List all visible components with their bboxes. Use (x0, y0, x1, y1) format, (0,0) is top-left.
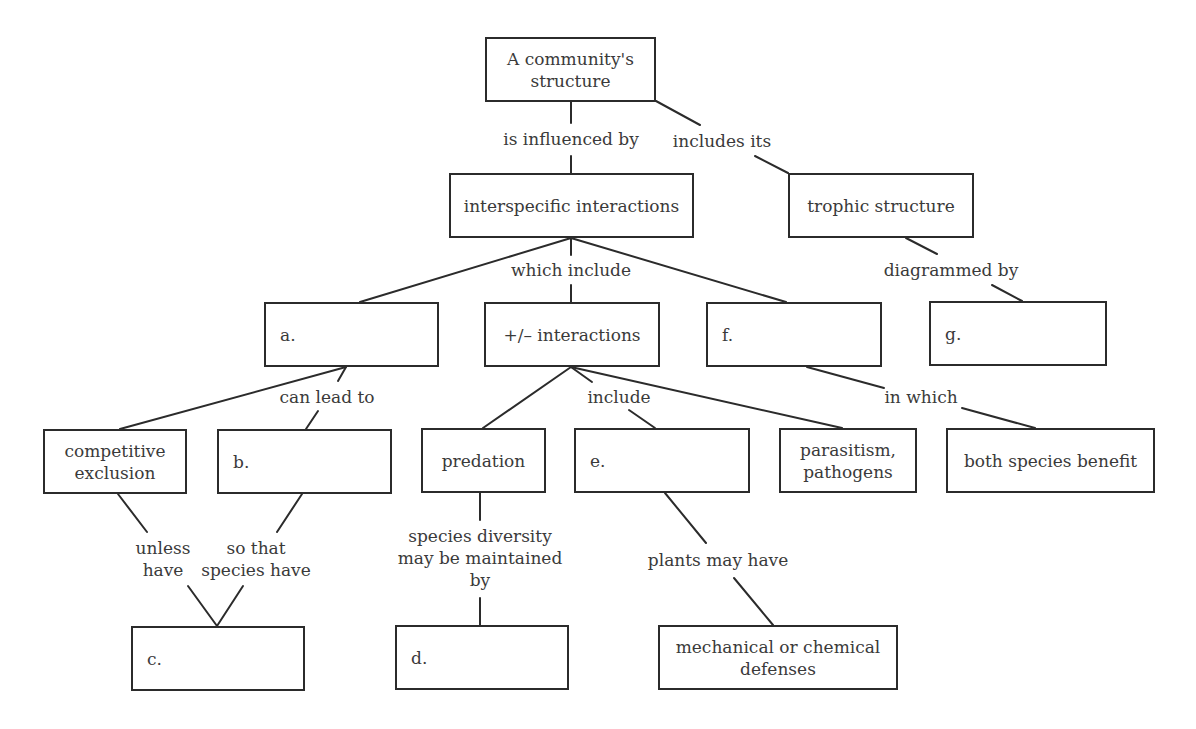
node-both-species-benefit: both species benefit (946, 428, 1155, 493)
node-label: g. (945, 323, 961, 345)
node-label: parasitism, pathogens (800, 439, 896, 483)
node-blank-a: a. (264, 302, 439, 367)
node-plus-minus-interactions: +/– interactions (484, 302, 660, 367)
connector-line (483, 367, 571, 428)
node-label: f. (722, 324, 733, 346)
edge-label-is-influenced-by: is influenced by (503, 128, 639, 150)
connector-line (755, 156, 788, 173)
node-label: a. (280, 324, 296, 346)
node-label: c. (147, 648, 162, 670)
node-label: b. (233, 451, 249, 473)
node-parasitism-pathogens: parasitism, pathogens (779, 428, 917, 493)
connector-line (118, 494, 147, 532)
edge-label-include: include (587, 386, 650, 408)
node-label: predation (442, 450, 526, 472)
connector-line (962, 408, 1035, 428)
node-label: e. (590, 450, 605, 472)
connector-line (277, 494, 302, 532)
connector-line (906, 238, 937, 254)
node-label: mechanical or chemical defenses (676, 636, 881, 680)
node-blank-b: b. (217, 429, 392, 494)
node-blank-g: g. (929, 301, 1107, 366)
node-interspecific-interactions: interspecific interactions (449, 173, 694, 238)
node-predation: predation (421, 428, 546, 493)
node-mechanical-chemical-defenses: mechanical or chemical defenses (658, 625, 898, 690)
edge-label-species-diversity-maintained-by: species diversity may be maintained by (398, 525, 563, 591)
node-label: d. (411, 647, 427, 669)
connector-line (992, 285, 1022, 301)
edge-label-diagrammed-by: diagrammed by (884, 259, 1019, 281)
node-label: competitive exclusion (64, 440, 165, 484)
connector-line (665, 493, 706, 543)
node-competitive-exclusion: competitive exclusion (43, 429, 187, 494)
connector-line (629, 410, 655, 428)
edge-label-unless-have: unless have (136, 537, 191, 581)
connector-line (807, 367, 884, 388)
node-blank-f: f. (706, 302, 882, 367)
connector-line (217, 586, 243, 626)
node-label: interspecific interactions (464, 195, 680, 217)
node-blank-e: e. (574, 428, 750, 493)
edge-label-so-that-species-have: so that species have (201, 537, 311, 581)
edge-label-in-which: in which (884, 386, 957, 408)
connector-line (656, 101, 700, 125)
edge-label-can-lead-to: can lead to (280, 386, 375, 408)
edge-label-which-include: which include (511, 259, 631, 281)
node-label: +/– interactions (503, 324, 640, 346)
edge-label-includes-its: includes its (673, 130, 771, 152)
connector-line (188, 586, 217, 626)
connector-line (306, 411, 318, 429)
connector-line (734, 578, 773, 625)
node-label: A community's structure (507, 48, 634, 92)
node-trophic-structure: trophic structure (788, 173, 974, 238)
node-label: both species benefit (964, 450, 1137, 472)
node-blank-c: c. (131, 626, 305, 691)
node-blank-d: d. (395, 625, 569, 690)
concept-map: A community's structureinterspecific int… (0, 0, 1196, 729)
node-label: trophic structure (807, 195, 955, 217)
edge-label-plants-may-have: plants may have (648, 549, 788, 571)
node-community-structure: A community's structure (485, 37, 656, 102)
